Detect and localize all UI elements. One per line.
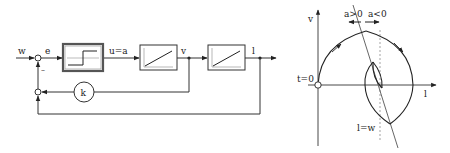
trajectory-lower-left xyxy=(365,85,390,124)
integrator-block-2 xyxy=(208,45,245,70)
trajectory-lower-right xyxy=(390,85,413,124)
target-label: l=w xyxy=(357,123,375,133)
position-label-l: l xyxy=(252,46,255,56)
error-label-e: e xyxy=(45,46,50,56)
label-a-negative: a<0 xyxy=(368,9,387,19)
direction-arrow-down-icon xyxy=(394,43,403,52)
velocity-label-v: v xyxy=(180,46,187,56)
diagram-canvas: w e – u=a v l xyxy=(0,0,450,153)
trajectory-accelerate xyxy=(318,31,366,85)
block-diagram: w e – u=a v l xyxy=(16,44,276,114)
integrator-block-1 xyxy=(140,45,177,70)
origin-marker xyxy=(315,82,321,88)
relay-output-label: u=a xyxy=(109,46,128,56)
relay-block xyxy=(63,44,103,71)
minus-sign: – xyxy=(41,65,45,74)
input-label-w: w xyxy=(18,46,26,56)
origin-label: t=0 xyxy=(297,74,314,84)
l-axis-label: l xyxy=(424,89,427,99)
summing-junction-2 xyxy=(35,89,41,95)
phase-plot: v l l=w a>0 a<0 t=0 xyxy=(297,5,436,148)
label-a-positive: a>0 xyxy=(344,9,363,19)
gain-label-k: k xyxy=(81,88,87,98)
trajectory-decelerate xyxy=(366,31,413,85)
summing-junction-1 xyxy=(35,55,41,61)
v-axis-label: v xyxy=(307,14,314,24)
